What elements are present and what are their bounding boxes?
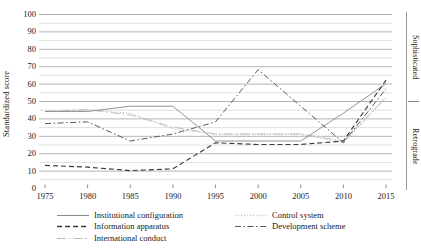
x-tick-label: 2000 bbox=[240, 191, 276, 201]
legend-item[interactable]: Institutional configuration bbox=[56, 209, 234, 220]
legend-item[interactable]: International conduct bbox=[56, 232, 234, 243]
x-axis-tick-labels: 197519801985199019952000200520102015 bbox=[39, 191, 392, 207]
y-tick-label: 30 bbox=[14, 132, 36, 140]
legend-line-swatch bbox=[56, 233, 90, 243]
legend-line-swatch bbox=[234, 221, 268, 231]
plot-area bbox=[39, 14, 392, 188]
y-tick-label: 70 bbox=[14, 62, 36, 70]
x-tick-label: 1990 bbox=[155, 191, 191, 201]
y-tick-label: 20 bbox=[14, 149, 36, 157]
x-tick-label: 2010 bbox=[325, 191, 361, 201]
legend-label: Development scheme bbox=[272, 221, 345, 231]
series-line bbox=[45, 70, 386, 143]
legend-line-swatch bbox=[56, 210, 90, 220]
x-tick-label: 1980 bbox=[70, 191, 106, 201]
legend-label: Information apparatus bbox=[94, 221, 169, 231]
legend-line-swatch bbox=[234, 210, 268, 220]
y-tick-label: 60 bbox=[14, 80, 36, 88]
y-tick-label: 100 bbox=[14, 10, 36, 18]
legend-column-1: Institutional configurationInformation a… bbox=[56, 209, 234, 249]
x-tick-label: 1995 bbox=[198, 191, 234, 201]
y-tick-label: 80 bbox=[14, 45, 36, 53]
chart-legend: Institutional configurationInformation a… bbox=[39, 209, 392, 249]
legend-column-2: Control systemDevelopment scheme bbox=[234, 209, 392, 249]
x-tick-label: 1985 bbox=[112, 191, 148, 201]
right-axis-divider bbox=[408, 101, 419, 102]
right-axis-label-retrograde: Retrograde bbox=[407, 104, 420, 188]
legend-item[interactable]: Development scheme bbox=[234, 221, 392, 232]
y-tick-label: 50 bbox=[14, 97, 36, 105]
y-tick-label: 40 bbox=[14, 114, 36, 122]
plot-svg bbox=[39, 14, 392, 188]
legend-line-swatch bbox=[56, 221, 90, 231]
line-chart: Standardized score 100908070605040302010… bbox=[0, 0, 421, 252]
y-axis-tick-labels: 1009080706050403020100 bbox=[14, 8, 36, 194]
y-tick-label: 10 bbox=[14, 167, 36, 175]
x-tick-label: 2015 bbox=[368, 191, 404, 201]
legend-item[interactable]: Information apparatus bbox=[56, 221, 234, 232]
x-tick-label: 2005 bbox=[283, 191, 319, 201]
legend-label: International conduct bbox=[94, 233, 166, 243]
series-line bbox=[45, 84, 386, 141]
legend-label: Institutional configuration bbox=[94, 210, 183, 220]
x-tick-label: 1975 bbox=[27, 191, 63, 201]
legend-item[interactable]: Control system bbox=[234, 209, 392, 220]
right-axis-label-sophisticated: Sophisticated bbox=[407, 16, 420, 98]
y-tick-label: 90 bbox=[14, 27, 36, 35]
y-axis-title: Standardized score bbox=[1, 44, 13, 164]
legend-label: Control system bbox=[272, 210, 324, 220]
